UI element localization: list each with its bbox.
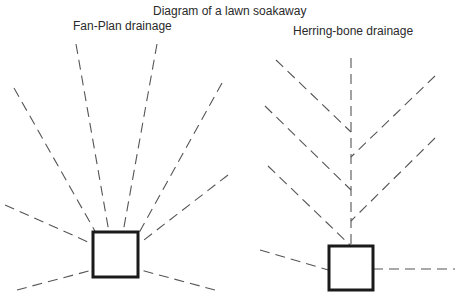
soakaway-pit — [93, 232, 138, 277]
drain-pipe-line — [265, 106, 351, 190]
drain-pipe-line — [5, 205, 97, 246]
herring-bone-diagram — [260, 58, 455, 290]
drainage-diagram-canvas — [0, 0, 458, 302]
soakaway-pit — [329, 246, 373, 290]
fan-plan-diagram — [5, 44, 228, 290]
drain-pipe-line — [133, 268, 215, 290]
drain-pipe-line — [17, 268, 100, 290]
drain-pipe-line — [14, 88, 100, 240]
drain-pipe-line — [76, 44, 110, 238]
drain-pipe-line — [140, 175, 228, 243]
drain-pipe-line — [260, 250, 332, 271]
drain-pipe-line — [276, 60, 351, 132]
drain-pipe-line — [351, 76, 435, 157]
drain-pipe-line — [135, 83, 222, 240]
drain-pipe-line — [351, 138, 435, 221]
